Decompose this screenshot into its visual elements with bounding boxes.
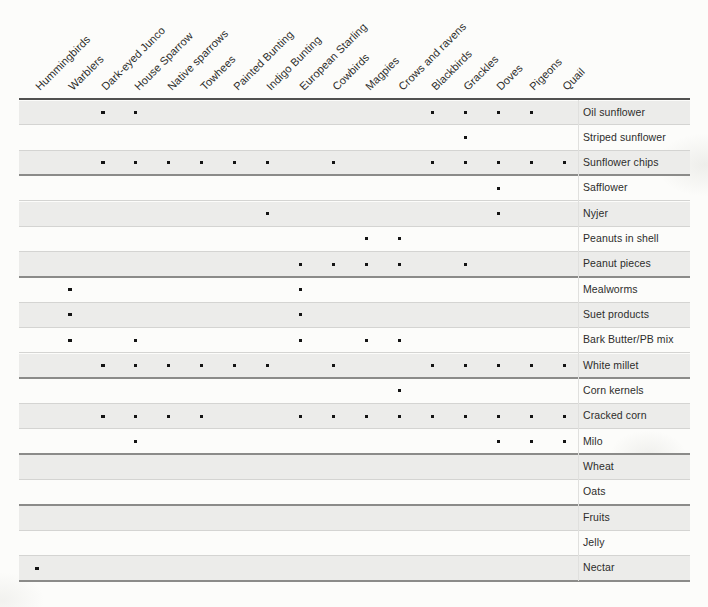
- matrix-dot: [134, 339, 137, 342]
- matrix-dot: [365, 415, 368, 418]
- matrix-dot: [200, 364, 203, 367]
- matrix-dot: [530, 161, 533, 164]
- matrix-dot: [464, 263, 467, 266]
- column-label-14: Doves: [494, 62, 525, 93]
- matrix-dot: [563, 161, 566, 164]
- matrix-dot: [200, 415, 203, 418]
- matrix-dot: [398, 415, 401, 418]
- matrix-dot: [266, 212, 269, 215]
- matrix-dot: [530, 364, 533, 367]
- matrix-dot: [167, 364, 170, 367]
- matrix-dot: [497, 187, 500, 190]
- column-label-15: Pigeons: [527, 55, 564, 92]
- matrix-dot: [464, 415, 467, 418]
- row-label: Bark Butter/PB mix: [583, 327, 674, 352]
- matrix-dot: [431, 415, 434, 418]
- matrix-dot: [398, 389, 401, 392]
- row-label: Jelly: [583, 530, 605, 555]
- matrix-dot: [167, 415, 170, 418]
- row-label: Suet products: [583, 302, 649, 327]
- matrix-dot: [101, 111, 104, 114]
- matrix-dot: [299, 313, 302, 316]
- matrix-dot: [431, 111, 434, 114]
- matrix-dot: [299, 415, 302, 418]
- matrix-dot: [464, 136, 467, 139]
- matrix-dot: [332, 263, 335, 266]
- row-label: Corn kernels: [583, 378, 644, 403]
- matrix-dot: [398, 237, 401, 240]
- matrix-dot: [497, 111, 500, 114]
- matrix-dot: [365, 237, 368, 240]
- matrix-dot: [563, 364, 566, 367]
- matrix-dot: [332, 161, 335, 164]
- matrix-dot: [200, 161, 203, 164]
- row-label: Wheat: [583, 454, 614, 479]
- matrix-dot: [134, 364, 137, 367]
- column-label-3: House Sparrow: [132, 29, 195, 92]
- matrix-dot: [497, 415, 500, 418]
- matrix-dot: [266, 161, 269, 164]
- matrix-dot: [563, 415, 566, 418]
- matrix-dot: [464, 364, 467, 367]
- row-label: White millet: [583, 353, 638, 378]
- matrix-dot: [431, 161, 434, 164]
- group-separator-line: [19, 580, 690, 582]
- vertical-rule: [578, 100, 579, 581]
- matrix-dot: [68, 313, 71, 316]
- matrix-dot: [398, 263, 401, 266]
- row-label: Peanuts in shell: [583, 226, 659, 251]
- matrix-dot: [134, 161, 137, 164]
- row-label: Mealworms: [583, 277, 638, 302]
- matrix-dot: [266, 364, 269, 367]
- row-label: Nyjer: [583, 201, 608, 226]
- row-label: Fruits: [583, 505, 610, 530]
- matrix-dot: [365, 263, 368, 266]
- column-label-6: Painted Bunting: [231, 28, 295, 92]
- row-label: Sunflower chips: [583, 150, 659, 175]
- matrix-dot: [35, 567, 38, 570]
- matrix-dot: [134, 111, 137, 114]
- matrix-dot: [167, 161, 170, 164]
- row-label: Striped sunflower: [583, 125, 666, 150]
- column-label-16: Quail: [560, 65, 587, 92]
- matrix-dot: [233, 364, 236, 367]
- matrix-dot: [497, 364, 500, 367]
- matrix-dot: [530, 415, 533, 418]
- matrix-dot: [332, 415, 335, 418]
- bird-food-preference-chart: HummingbirdsWarblersDark-eyed JuncoHouse…: [0, 0, 708, 607]
- row-label: Oats: [583, 479, 606, 504]
- row-label: Milo: [583, 429, 603, 454]
- matrix-dot: [497, 212, 500, 215]
- matrix-dot: [101, 161, 104, 164]
- matrix-dot: [497, 440, 500, 443]
- matrix-dot: [101, 364, 104, 367]
- matrix-dot: [299, 263, 302, 266]
- matrix-dot: [134, 440, 137, 443]
- matrix-dot: [299, 288, 302, 291]
- row-label: Peanut pieces: [583, 251, 651, 276]
- matrix-dot: [530, 440, 533, 443]
- matrix-dot: [431, 364, 434, 367]
- column-label-0: Hummingbirds: [33, 33, 92, 92]
- matrix-dot: [464, 111, 467, 114]
- matrix-dot: [365, 339, 368, 342]
- matrix-dot: [398, 339, 401, 342]
- matrix-dot: [332, 364, 335, 367]
- matrix-dot: [101, 415, 104, 418]
- matrix-dot: [68, 288, 71, 291]
- row-label: Cracked corn: [583, 403, 647, 428]
- matrix-dot: [563, 440, 566, 443]
- matrix-dot: [299, 339, 302, 342]
- matrix-dot: [497, 161, 500, 164]
- matrix-dot: [233, 161, 236, 164]
- matrix-dot: [530, 111, 533, 114]
- row-label: Nectar: [583, 555, 615, 580]
- matrix-dot: [134, 415, 137, 418]
- matrix-dot: [464, 161, 467, 164]
- matrix-dot: [68, 339, 71, 342]
- row-label: Oil sunflower: [583, 100, 645, 125]
- row-label: Safflower: [583, 175, 627, 200]
